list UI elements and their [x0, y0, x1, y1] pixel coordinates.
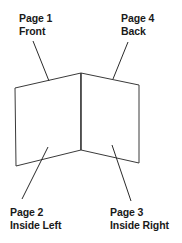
leader-line-page4 — [113, 42, 128, 79]
label-page-3-position: Inside Right — [110, 219, 169, 232]
label-page-3-number: Page 3 — [110, 206, 169, 219]
label-page-2-number: Page 2 — [10, 206, 61, 219]
leader-line-page1 — [33, 41, 49, 81]
label-page-1-position: Front — [19, 25, 52, 38]
left-panel-shape — [15, 73, 81, 166]
label-page-3-inside-right: Page 3 Inside Right — [110, 206, 169, 232]
label-page-2-inside-left: Page 2 Inside Left — [10, 206, 61, 232]
label-page-1-front: Page 1 Front — [19, 12, 52, 38]
label-page-4-position: Back — [121, 25, 154, 38]
right-panel-shape — [81, 73, 139, 163]
diagram-page: Page 1 Front Page 4 Back Page 2 Inside L… — [0, 0, 182, 243]
label-page-2-position: Inside Left — [10, 219, 61, 232]
label-page-1-number: Page 1 — [19, 12, 52, 25]
label-page-4-back: Page 4 Back — [121, 12, 154, 38]
label-page-4-number: Page 4 — [121, 12, 154, 25]
